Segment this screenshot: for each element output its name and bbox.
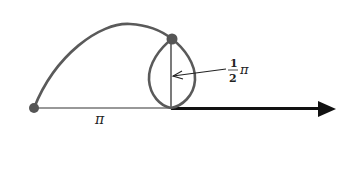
left-point bbox=[29, 103, 39, 113]
polar-axis-arrowhead bbox=[318, 101, 336, 117]
top-point bbox=[167, 34, 178, 45]
half-pi-symbol: π bbox=[239, 62, 249, 77]
polar-diagram: π 1 2 π bbox=[0, 0, 356, 190]
pi-label: π bbox=[94, 111, 105, 127]
half-numerator: 1 bbox=[230, 57, 238, 70]
pointer-arrow bbox=[173, 69, 226, 76]
half-denominator: 2 bbox=[229, 72, 237, 85]
